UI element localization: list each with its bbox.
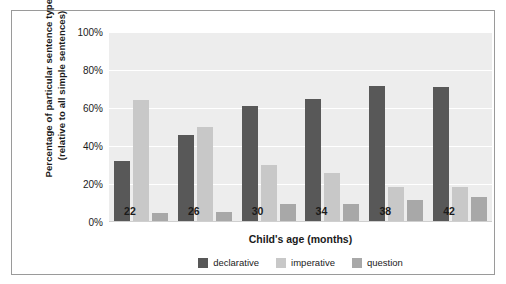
legend-item-declarative[interactable]: declarative	[198, 257, 259, 268]
y-tick-label: 100%	[77, 27, 103, 38]
legend-item-question[interactable]: question	[352, 257, 403, 268]
legend-swatch-declarative	[198, 258, 208, 268]
x-axis-baseline	[109, 221, 492, 222]
y-axis-title: Percentage of particular sentence types …	[43, 0, 68, 181]
gridline	[109, 222, 492, 223]
bar-group	[114, 32, 168, 222]
bar-question-34[interactable]	[343, 204, 359, 222]
y-tick-label: 80%	[83, 65, 103, 76]
chart-legend: declarativeimperativequestion	[109, 257, 492, 268]
y-tick-label: 0%	[89, 217, 103, 228]
chart-figure: Percentage of particular sentence types …	[0, 0, 506, 284]
plot-area: 0%20%40%60%80%100%	[109, 32, 492, 222]
legend-label-imperative: imperative	[291, 257, 335, 268]
bar-question-42[interactable]	[471, 197, 487, 222]
x-tick-label: 34	[316, 205, 328, 217]
x-axis-title: Child's age (months)	[109, 233, 492, 245]
x-tick-label: 26	[188, 205, 200, 217]
bar-declarative-42[interactable]	[433, 87, 449, 222]
legend-label-declarative: declarative	[213, 257, 259, 268]
y-tick-label: 20%	[83, 179, 103, 190]
legend-item-imperative[interactable]: imperative	[276, 257, 335, 268]
bar-group	[369, 32, 423, 222]
legend-swatch-question	[352, 258, 362, 268]
y-tick-label: 40%	[83, 141, 103, 152]
bar-question-38[interactable]	[407, 200, 423, 222]
bar-question-30[interactable]	[280, 204, 296, 222]
y-axis-title-line1: Percentage of particular sentence types	[43, 0, 54, 177]
bar-group	[178, 32, 232, 222]
chart-frame: Percentage of particular sentence types …	[11, 10, 495, 275]
legend-swatch-imperative	[276, 258, 286, 268]
bar-declarative-34[interactable]	[305, 99, 321, 223]
x-tick-label: 42	[443, 205, 455, 217]
y-axis-title-line2: (relative to all simple sentences)	[55, 0, 68, 181]
x-tick-label: 38	[379, 205, 391, 217]
bar-group	[433, 32, 487, 222]
y-tick-label: 60%	[83, 103, 103, 114]
bar-imperative-22[interactable]	[133, 100, 149, 222]
bar-group	[242, 32, 296, 222]
x-tick-label: 30	[252, 205, 264, 217]
bar-series-container	[109, 32, 492, 222]
bar-group	[305, 32, 359, 222]
bar-declarative-38[interactable]	[369, 86, 385, 222]
x-tick-label: 22	[124, 205, 136, 217]
legend-label-question: question	[367, 257, 403, 268]
